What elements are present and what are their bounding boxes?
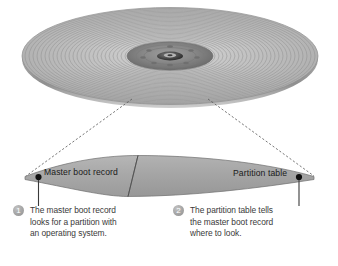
figure-container: Master boot record Partition table 1 The… [0, 0, 338, 266]
callout-1-line-1: The master boot record [30, 205, 117, 217]
band-label-master-boot-record: Master boot record [44, 167, 118, 177]
callout-badge-2: 2 [173, 205, 184, 216]
callout-text-1: The master boot record looks for a parti… [30, 205, 117, 240]
callout-2-line-1: The partition table tells [190, 205, 273, 217]
pointer-dot-right [296, 174, 302, 180]
callout-2-line-2: the master boot record [190, 217, 273, 229]
callout-badge-1: 1 [13, 205, 24, 216]
callout-text-2: The partition table tells the master boo… [190, 205, 273, 240]
callout-1-line-3: an operating system. [30, 228, 117, 240]
pointer-dot-left [35, 174, 41, 180]
spindle-bore [167, 54, 172, 56]
callout-2-line-3: where to look. [190, 228, 273, 240]
callout-1-line-2: looks for a partition with [30, 217, 117, 229]
band-label-partition-table: Partition table [233, 168, 287, 178]
disk-platter [22, 8, 318, 109]
